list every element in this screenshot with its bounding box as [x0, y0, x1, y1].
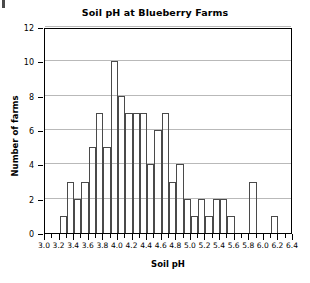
x-tick-minor [66, 234, 67, 238]
x-tick-major [132, 234, 133, 240]
y-tick-mark [38, 234, 43, 235]
x-tick-label: 4.8 [169, 241, 181, 250]
x-tick-label: 5.6 [228, 241, 240, 250]
histogram-bar [271, 216, 278, 233]
histogram-bar [227, 216, 234, 233]
x-tick-label: 5.2 [199, 241, 211, 250]
x-tick-minor [270, 234, 271, 238]
histogram-bar [89, 147, 96, 233]
x-tick-minor [285, 234, 286, 238]
x-tick-minor [153, 234, 154, 238]
x-tick-label: 3.2 [53, 241, 65, 250]
x-tick-minor [139, 234, 140, 238]
gridline [45, 26, 291, 27]
y-tick-mark [38, 28, 43, 29]
y-tick-label: 12 [24, 24, 34, 33]
x-tick-label: 6.0 [257, 241, 269, 250]
x-tick-label: 5.4 [213, 241, 225, 250]
histogram-bar [118, 96, 125, 233]
x-tick-minor [51, 234, 52, 238]
x-tick-label: 4.2 [126, 241, 138, 250]
x-tick-major [88, 234, 89, 240]
x-tick-major [263, 234, 264, 240]
histogram-bar [154, 130, 161, 233]
histogram-bar [140, 113, 147, 233]
histogram-bar [249, 182, 256, 234]
chart-figure: Soil pH at Blueberry Farms Number of far… [0, 0, 310, 283]
x-tick-minor [168, 234, 169, 238]
x-tick-minor [212, 234, 213, 238]
histogram-bar [147, 164, 154, 233]
x-tick-minor [226, 234, 227, 238]
y-tick-label: 4 [29, 161, 34, 170]
x-tick-minor [183, 234, 184, 238]
x-tick-label: 3.6 [82, 241, 94, 250]
histogram-bar [111, 61, 118, 233]
x-tick-minor [256, 234, 257, 238]
histogram-bar [184, 199, 191, 233]
histogram-bar [96, 113, 103, 233]
x-tick-major [117, 234, 118, 240]
histogram-bar [213, 199, 220, 233]
y-tick-label: 10 [24, 58, 34, 67]
y-tick-mark [38, 165, 43, 166]
x-tick-minor [197, 234, 198, 238]
histogram-bar [67, 182, 74, 234]
x-tick-major [204, 234, 205, 240]
histogram-bar [176, 164, 183, 233]
histogram-bars [45, 29, 291, 233]
histogram-bar [191, 216, 198, 233]
y-tick-mark [38, 200, 43, 201]
x-tick-label: 4.0 [111, 241, 123, 250]
x-tick-major [44, 234, 45, 240]
x-tick-label: 4.4 [140, 241, 152, 250]
histogram-bar [103, 147, 110, 233]
histogram-bar [125, 113, 132, 233]
plot-area [44, 28, 292, 234]
y-tick-label: 8 [29, 92, 34, 101]
x-tick-label: 3.0 [38, 241, 50, 250]
histogram-bar [169, 182, 176, 234]
x-tick-major [102, 234, 103, 240]
x-tick-major [292, 234, 293, 240]
histogram-bar [60, 216, 67, 233]
y-tick-label: 0 [29, 230, 34, 239]
x-tick-major [175, 234, 176, 240]
histogram-bar [198, 199, 205, 233]
histogram-bar [81, 182, 88, 234]
histogram-bar [205, 216, 212, 233]
x-tick-major [234, 234, 235, 240]
x-tick-label: 5.8 [242, 241, 254, 250]
x-axis: 3.03.23.43.63.84.04.24.44.64.85.05.25.45… [44, 234, 292, 256]
y-tick-mark [38, 62, 43, 63]
x-tick-major [59, 234, 60, 240]
x-tick-minor [124, 234, 125, 238]
y-tick-mark [38, 131, 43, 132]
histogram-bar [133, 113, 140, 233]
histogram-bar [220, 199, 227, 233]
histogram-bar [74, 199, 81, 233]
x-tick-major [73, 234, 74, 240]
x-tick-label: 6.2 [271, 241, 283, 250]
x-tick-label: 3.8 [96, 241, 108, 250]
x-tick-major [146, 234, 147, 240]
y-tick-label: 6 [29, 127, 34, 136]
y-axis: 024681012 [0, 28, 40, 234]
y-tick-mark [38, 97, 43, 98]
histogram-bar [162, 113, 169, 233]
x-tick-label: 6.4 [286, 241, 298, 250]
x-tick-label: 3.4 [67, 241, 79, 250]
x-tick-major [190, 234, 191, 240]
x-tick-label: 5.0 [184, 241, 196, 250]
x-tick-minor [95, 234, 96, 238]
chart-title: Soil pH at Blueberry Farms [0, 7, 310, 18]
y-tick-label: 2 [29, 195, 34, 204]
x-tick-major [277, 234, 278, 240]
x-tick-minor [80, 234, 81, 238]
x-tick-minor [110, 234, 111, 238]
x-axis-title: Soil pH [44, 259, 292, 269]
x-tick-label: 4.6 [155, 241, 167, 250]
x-tick-major [161, 234, 162, 240]
x-tick-major [248, 234, 249, 240]
x-tick-major [219, 234, 220, 240]
